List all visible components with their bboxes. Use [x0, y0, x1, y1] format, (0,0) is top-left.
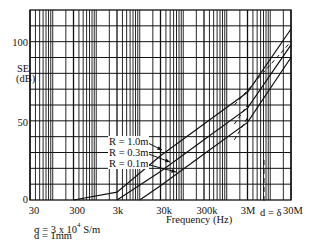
x-axis-title: Frequency (Hz)	[166, 214, 232, 225]
legend-r-1m: R = 1.0m	[108, 136, 149, 147]
legend-r-0-3m: R = 0.3m	[108, 147, 149, 158]
x-tick-3k: 3k	[113, 205, 124, 216]
x-tick-3M: 3M	[241, 205, 256, 216]
x-tick-30M: 30M	[283, 205, 303, 216]
y-tick-50: 50	[2, 117, 28, 128]
conductivity-unit: S/m	[81, 224, 101, 235]
curve-1	[74, 29, 292, 200]
x-tick-300: 300	[69, 205, 85, 216]
curves	[74, 29, 292, 200]
skin-depth-note: d = δ	[260, 207, 281, 218]
legend-r-0-1m: R = 0.1m	[108, 158, 149, 169]
annotation-marks	[146, 142, 264, 204]
y-tick-0: 0	[2, 194, 28, 205]
thickness-note: d = 1mm	[34, 230, 72, 241]
y-axis-title-line2: (dB)	[16, 73, 35, 84]
y-tick-100: 100	[2, 37, 28, 48]
x-tick-30: 30	[29, 205, 40, 216]
